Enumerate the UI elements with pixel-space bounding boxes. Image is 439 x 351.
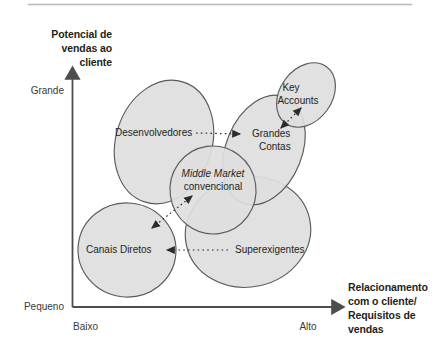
- bubble-label-key-accounts-line2: Accounts: [277, 95, 318, 106]
- bubble-label-key-accounts-line1: Key: [282, 82, 299, 93]
- y-axis-title-line2: vendas ao: [62, 42, 112, 54]
- x-axis-title: Relacionamento com o cliente/ Requisitos…: [348, 281, 428, 335]
- x-axis-title-line3: Requisitos de: [348, 309, 416, 321]
- y-axis-title-line1: Potencial de: [51, 28, 112, 40]
- y-axis-title: Potencial de vendas ao cliente: [51, 28, 112, 68]
- bubble-label-canais-diretos: Canais Diretos: [86, 244, 152, 255]
- x-axis-title-line1: Relacionamento: [348, 281, 428, 293]
- bubble-label-middle-market-line1: Middle Market: [182, 168, 246, 179]
- bubble-label-middle-market-line2: convencional: [184, 181, 242, 192]
- x-axis-title-line2: com o cliente/: [348, 295, 417, 307]
- y-axis-title-line3: cliente: [79, 56, 112, 68]
- y-axis-low-label: Pequeno: [24, 301, 64, 312]
- bubble-label-desenvolvedores: Desenvolvedores: [115, 127, 192, 138]
- x-axis-title-line4: vendas: [348, 323, 384, 335]
- x-axis-high-label: Alto: [299, 321, 317, 332]
- y-axis-high-label: Grande: [31, 85, 65, 96]
- diagram-canvas: Desenvolvedores Key Accounts Grandes Con…: [0, 0, 439, 351]
- x-axis-low-label: Baixo: [73, 321, 98, 332]
- bubble-label-grandes-contas-line1: Grandes: [252, 128, 290, 139]
- bubble-label-grandes-contas-line2: Contas: [259, 141, 291, 152]
- bubble-label-superexigentes: Superexigentes: [235, 244, 305, 255]
